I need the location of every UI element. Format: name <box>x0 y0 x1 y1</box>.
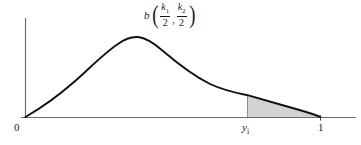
beta-distribution-figure: b ( k1 2 , k2 2 ) 0 yi 1 <box>0 0 361 145</box>
curve-label-first-argument: k1 2 <box>160 2 170 28</box>
x-tick-label-one: 1 <box>318 122 324 133</box>
first-arg-numerator: k1 <box>160 2 170 16</box>
second-arg-denominator: 2 <box>179 17 184 28</box>
curve-label-second-argument: k2 2 <box>177 2 187 28</box>
first-arg-denominator: 2 <box>163 17 168 28</box>
curve-label-open-paren: ( <box>152 4 158 25</box>
curve-label-close-paren: ) <box>189 4 195 25</box>
curve-label-function: b <box>144 10 151 21</box>
x-tick-label-zero: 0 <box>14 122 20 133</box>
second-arg-numerator: k2 <box>177 2 187 16</box>
x-tick-label-yi: yi <box>242 122 249 136</box>
curve-label: b ( k1 2 , k2 2 ) <box>144 2 196 28</box>
curve-label-separator: , <box>171 15 176 25</box>
